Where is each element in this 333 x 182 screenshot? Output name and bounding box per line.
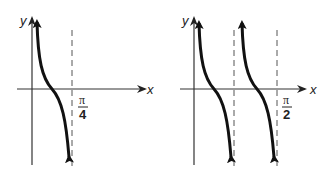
x-axis-label: x [309, 82, 317, 97]
asymptote-label-denominator: 4 [79, 107, 87, 122]
x-axis-label: x [146, 82, 154, 97]
cotangent-curve-branch-1 [199, 23, 231, 157]
graphs-canvas: y x π 4 y x π 2 [0, 0, 333, 182]
left-graph: y x π 4 [17, 13, 154, 166]
y-axis-label: y [181, 13, 190, 28]
asymptote-label-denominator: 2 [283, 107, 290, 122]
asymptote-label-numerator: π [283, 93, 289, 107]
right-graph: y x π 2 [180, 13, 317, 166]
cotangent-curve-branch-2 [242, 23, 274, 157]
y-axis-label: y [19, 13, 28, 28]
asymptote-label-numerator: π [79, 93, 85, 107]
